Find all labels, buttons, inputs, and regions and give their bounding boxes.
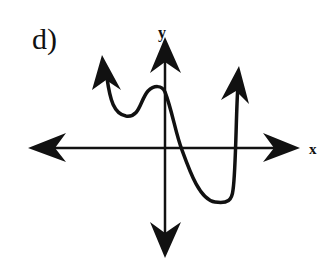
curve-right-arrow-icon	[221, 66, 249, 104]
function-curve	[92, 55, 249, 203]
graph	[0, 0, 333, 273]
